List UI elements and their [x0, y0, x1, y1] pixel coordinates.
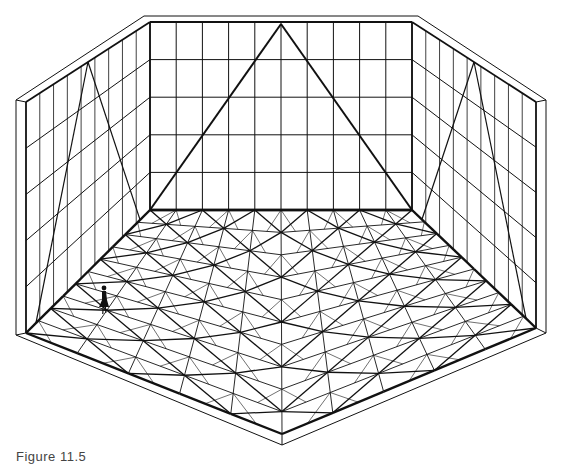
back-wall-grid	[150, 22, 412, 210]
triangulated-floor	[26, 210, 536, 434]
figure-caption: Figure 11.5	[16, 449, 86, 464]
right-wall-grid	[412, 22, 536, 328]
